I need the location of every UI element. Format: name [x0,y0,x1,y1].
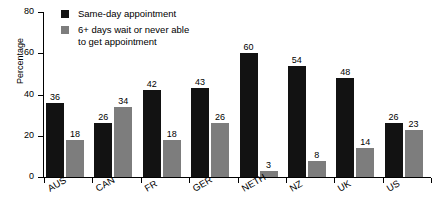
bar-value-label: 60 [236,42,262,52]
x-tick-label-nz: NZ [288,179,304,194]
x-tick-label-fr: FR [143,179,159,194]
bar-group: 4814 [334,12,382,177]
x-tick-label-uk: UK [336,178,352,193]
bar-value-label: 36 [42,92,68,102]
bar: 8 [308,161,326,178]
bar-value-label: 54 [284,55,310,65]
bar-value-label: 23 [401,119,427,129]
bar-value-label: 26 [90,112,116,122]
x-tick-mark [334,178,335,183]
bar: 36 [46,103,64,177]
bar: 48 [336,78,354,177]
bar-value-label: 3 [256,160,282,170]
bar: 18 [66,140,84,177]
bar-value-label: 43 [187,77,213,87]
y-tick-mark [38,177,43,178]
x-tick-mark [189,178,190,183]
bar-group: 548 [286,12,334,177]
bar-value-label: 42 [139,79,165,89]
legend-item-six-plus-days: 6+ days wait or never able to get appoin… [61,24,189,49]
x-tick-mark [92,178,93,183]
bar: 14 [356,148,374,177]
bar: 34 [114,107,132,177]
x-tick-mark [238,178,239,183]
legend-label-series1: 6+ days wait or never able [78,24,189,35]
legend-label-series1-line2: to get appointment [78,36,189,49]
legend-swatch-icon-series0 [61,10,69,18]
bar: 23 [405,130,423,177]
x-tick-mark [44,178,45,183]
bar: 43 [191,88,209,177]
bar: 60 [240,53,258,177]
bar-value-label: 14 [352,137,378,147]
bar-group: 4326 [189,12,237,177]
y-tick-label: 0 [14,172,34,181]
bar: 26 [211,123,229,177]
x-tick-mark [141,178,142,183]
bar-value-label: 18 [62,129,88,139]
y-tick-mark [38,12,43,13]
bar-group: 2623 [383,12,431,177]
x-tick-mark [286,178,287,183]
bar: 26 [94,123,112,177]
y-tick-label: 80 [14,7,34,16]
legend-label-series0: Same-day appointment [78,8,176,19]
legend-item-same-day: Same-day appointment [61,8,189,21]
bar-value-label: 48 [332,67,358,77]
x-tick-mark [383,178,384,183]
bar-group: 603 [238,12,286,177]
y-tick-label: 40 [14,90,34,99]
x-tick-mark [431,178,432,183]
bar: 18 [163,140,181,177]
chart-legend: Same-day appointment 6+ days wait or nev… [61,8,189,52]
bar-value-label: 34 [110,96,136,106]
bar: 26 [385,123,403,177]
y-tick-label: 60 [14,48,34,57]
bar-value-label: 8 [304,150,330,160]
bar: 54 [288,66,306,177]
y-tick-mark [38,53,43,54]
y-tick-label: 20 [14,131,34,140]
bar-value-label: 26 [207,112,233,122]
legend-swatch-icon-series1 [61,26,69,34]
x-tick-label-us: US [385,178,401,193]
y-tick-mark [38,136,43,137]
bar-chart: Percentage 020406080 3618263442184326603… [0,0,436,221]
bar-value-label: 18 [159,129,185,139]
